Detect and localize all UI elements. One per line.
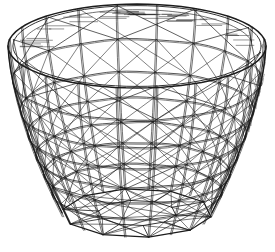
wireframe-basket-illustration — [0, 0, 275, 252]
wireframe-svg — [0, 0, 275, 252]
